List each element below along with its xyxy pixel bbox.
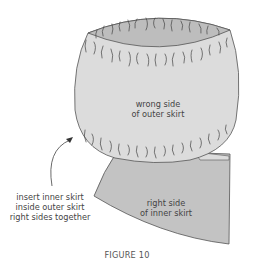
skirt-diagram (0, 0, 254, 267)
arrow-head-icon (66, 137, 73, 143)
inner-skirt-label-line2: of inner skirt (126, 208, 206, 218)
instruction-line2: inside outer skirt (8, 202, 92, 212)
inner-skirt-label-line1: right side (126, 198, 206, 208)
instruction-label: insert inner skirt inside outer skirt ri… (8, 192, 92, 222)
inner-skirt-shape (94, 150, 230, 244)
figure-caption: FIGURE 10 (0, 250, 254, 260)
instruction-line1: insert inner skirt (8, 192, 92, 202)
outer-skirt-label-line2: of outer skirt (118, 109, 198, 119)
outer-skirt-label-line1: wrong side (118, 99, 198, 109)
instruction-line3: right sides together (8, 212, 92, 222)
outer-skirt-label: wrong side of outer skirt (118, 99, 198, 119)
inner-skirt-label: right side of inner skirt (126, 198, 206, 218)
curved-arrow (51, 140, 70, 186)
